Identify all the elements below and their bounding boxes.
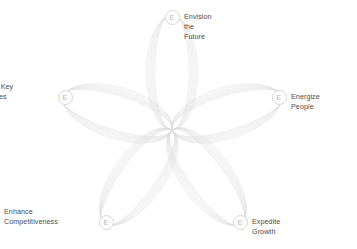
node-badge-letter: E: [238, 219, 243, 226]
node-badge-icon: E: [233, 215, 248, 230]
node-label-energize-people: Energize People: [291, 92, 320, 112]
rosette-petal-group: [56, 13, 288, 238]
node-badge-icon: E: [272, 90, 287, 105]
node-badge-icon: E: [58, 90, 73, 105]
node-badge-icon: E: [99, 215, 114, 230]
radial-rosette-diagram: E Envision the Future E Energize People …: [0, 0, 357, 249]
node-badge-icon: E: [165, 10, 180, 25]
node-badge-letter: E: [104, 219, 109, 226]
node-label-envision-the-future: Envision the Future: [184, 12, 212, 42]
node-badge-letter: E: [277, 94, 282, 101]
node-label-expedite-growth: Expedite Growth: [252, 217, 280, 237]
node-label-enhance-competitiveness: Enhance Competitiveness: [4, 207, 94, 227]
node-label-establish-key-capabilities: Establish Key Capabilities: [0, 82, 53, 102]
node-badge-letter: E: [63, 94, 68, 101]
node-badge-letter: E: [170, 14, 175, 21]
